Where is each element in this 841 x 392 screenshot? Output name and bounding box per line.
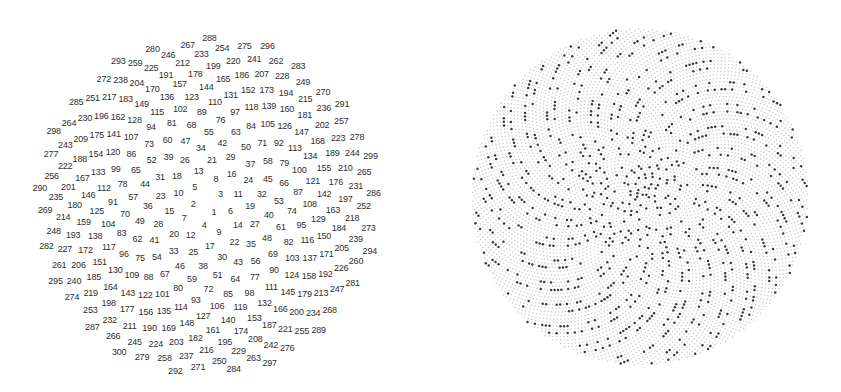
spiral-number-label: 81	[167, 119, 177, 128]
spiral-number-label: 163	[326, 206, 340, 215]
spiral-number-label: 272	[97, 75, 111, 84]
spiral-number-label: 107	[124, 132, 138, 141]
spiral-number-label: 270	[316, 87, 330, 96]
spiral-number-label: 249	[296, 78, 310, 87]
spiral-number-label: 227	[58, 244, 72, 253]
spiral-number-label: 149	[134, 99, 148, 108]
spiral-number-label: 165	[216, 75, 230, 84]
spiral-number-label: 172	[78, 245, 92, 254]
spiral-number-label: 187	[262, 320, 276, 329]
spiral-number-label: 295	[48, 277, 62, 286]
spiral-number-label: 146	[81, 191, 95, 200]
spiral-number-label: 256	[44, 172, 58, 181]
spiral-number-label: 294	[363, 247, 377, 256]
spiral-number-label: 118	[245, 103, 259, 112]
spiral-number-label: 68	[187, 121, 197, 130]
spiral-number-label: 54	[152, 253, 162, 262]
spiral-number-label: 76	[216, 116, 226, 125]
spiral-number-label: 233	[194, 50, 208, 59]
spiral-number-label: 162	[111, 112, 125, 121]
spiral-number-label: 55	[204, 127, 214, 136]
spiral-number-label: 53	[274, 196, 284, 205]
spiral-number-label: 241	[247, 55, 261, 64]
spiral-number-label: 245	[127, 337, 141, 346]
spiral-number-label: 284	[226, 365, 240, 374]
spiral-number-label: 275	[237, 41, 251, 50]
spiral-number-label: 67	[160, 269, 170, 278]
spiral-number-label: 95	[296, 220, 306, 229]
spiral-number-label: 188	[73, 154, 87, 163]
spiral-number-label: 152	[241, 86, 255, 95]
spiral-number-label: 229	[231, 347, 245, 356]
spiral-number-label: 64	[230, 274, 240, 283]
spiral-number-label: 113	[288, 143, 302, 152]
spiral-number-label: 215	[298, 94, 312, 103]
spiral-number-label: 97	[230, 107, 240, 116]
spiral-number-label: 204	[130, 78, 144, 87]
spiral-number-label: 75	[135, 254, 145, 263]
spiral-number-label: 148	[180, 319, 194, 328]
spiral-number-label: 17	[205, 241, 215, 250]
spiral-number-label: 27	[250, 219, 260, 228]
spiral-number-label: 234	[306, 308, 320, 317]
spiral-number-label: 225	[144, 63, 158, 72]
spiral-number-label: 7	[182, 213, 187, 222]
spiral-number-label: 278	[350, 133, 364, 142]
spiral-number-label: 5	[192, 182, 197, 191]
spiral-number-label: 46	[175, 262, 185, 271]
spiral-number-label: 283	[291, 62, 305, 71]
spiral-number-label: 47	[181, 136, 191, 145]
spiral-number-label: 115	[150, 107, 164, 116]
spiral-number-label: 296	[260, 42, 274, 51]
spiral-number-label: 58	[263, 156, 273, 165]
spiral-number-label: 79	[279, 159, 289, 168]
spiral-number-label: 40	[264, 210, 274, 219]
spiral-number-label: 3	[218, 190, 223, 199]
spiral-number-label: 135	[157, 307, 171, 316]
spiral-number-label: 290	[33, 184, 47, 193]
spiral-number-label: 144	[199, 82, 213, 91]
spiral-number-label: 265	[357, 167, 371, 176]
spiral-number-label: 84	[246, 122, 256, 131]
spiral-number-label: 56	[251, 256, 261, 265]
spiral-number-label: 49	[135, 217, 145, 226]
spiral-number-label: 42	[217, 138, 227, 147]
spiral-number-label: 50	[241, 143, 251, 152]
spiral-number-label: 136	[160, 93, 174, 102]
spiral-number-label: 122	[138, 290, 152, 299]
spiral-number-label: 156	[139, 308, 153, 317]
spiral-number-label: 180	[67, 201, 81, 210]
spiral-number-label: 6	[228, 206, 233, 215]
spiral-number-label: 246	[161, 51, 175, 60]
spiral-number-label: 192	[318, 269, 332, 278]
spiral-number-label: 157	[172, 80, 186, 89]
spiral-number-label: 39	[164, 152, 174, 161]
spiral-number-label: 29	[226, 153, 236, 162]
numbered-spiral-panel: 1234567891011121314151617181920212223242…	[0, 0, 420, 392]
spiral-number-label: 24	[243, 175, 253, 184]
spiral-number-label: 96	[119, 250, 129, 259]
spiral-number-label: 155	[317, 163, 331, 172]
spiral-number-label: 183	[118, 95, 132, 104]
spiral-number-label: 11	[234, 190, 243, 199]
spiral-number-label: 94	[146, 123, 156, 132]
spiral-number-label: 83	[117, 229, 127, 238]
spiral-number-label: 184	[332, 224, 346, 233]
spiral-number-label: 38	[198, 261, 208, 270]
spiral-number-label: 105	[260, 120, 274, 129]
spiral-number-label: 252	[356, 202, 370, 211]
spiral-number-label: 263	[246, 354, 260, 363]
spiral-number-label: 65	[131, 165, 141, 174]
spiral-number-label: 251	[85, 94, 99, 103]
spiral-number-label: 59	[187, 275, 197, 284]
spiral-number-label: 108	[302, 199, 316, 208]
spiral-number-label: 63	[231, 128, 241, 137]
spiral-number-label: 248	[46, 226, 60, 235]
spiral-number-label: 174	[234, 326, 248, 335]
spiral-number-label: 69	[268, 249, 278, 258]
spiral-number-label: 91	[108, 198, 118, 207]
spiral-number-label: 185	[87, 273, 101, 282]
spiral-number-label: 87	[293, 187, 303, 196]
spiral-number-label: 190	[142, 324, 156, 333]
spiral-number-label: 257	[334, 117, 348, 126]
